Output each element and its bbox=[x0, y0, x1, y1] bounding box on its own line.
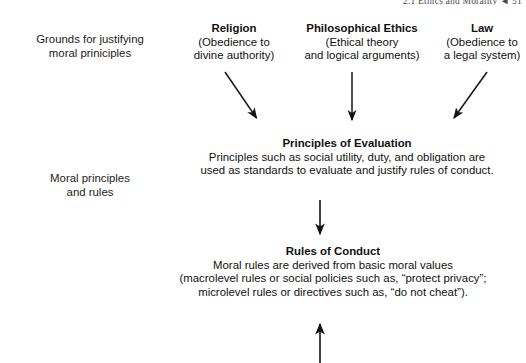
column-law-subtitle: (Obedience to a legal system) bbox=[436, 36, 526, 63]
node-rules-of-conduct: Rules of Conduct Moral rules are derived… bbox=[140, 245, 526, 299]
column-law-title: Law bbox=[436, 22, 526, 36]
node-rules-of-conduct-body: Moral rules are derived from basic moral… bbox=[140, 259, 526, 299]
running-head: 2.1 Ethics and Morality ◄ 51 bbox=[403, 0, 522, 5]
node-rules-of-conduct-title: Rules of Conduct bbox=[140, 245, 526, 258]
node-principles-of-evaluation-title: Principles of Evaluation bbox=[168, 137, 526, 150]
row-label-grounds: Grounds for justifying moral priniciples bbox=[2, 33, 178, 60]
arrow-law-to-principles bbox=[454, 72, 487, 118]
column-philosophical-ethics: Philosophical Ethics (Ethical theory and… bbox=[288, 22, 436, 63]
column-religion-subtitle: (Obedience to divine authority) bbox=[182, 36, 286, 63]
node-principles-of-evaluation: Principles of Evaluation Principles such… bbox=[168, 137, 526, 178]
column-philosophical-ethics-title: Philosophical Ethics bbox=[288, 22, 436, 36]
node-principles-of-evaluation-body: Principles such as social utility, duty,… bbox=[168, 151, 526, 178]
column-law: Law (Obedience to a legal system) bbox=[436, 22, 526, 63]
column-religion: Religion (Obedience to divine authority) bbox=[182, 22, 286, 63]
column-religion-title: Religion bbox=[182, 22, 286, 36]
column-philosophical-ethics-subtitle: (Ethical theory and logical arguments) bbox=[288, 36, 436, 63]
row-label-moral-principles: Moral principles and rules bbox=[2, 172, 178, 199]
arrow-religion-to-principles bbox=[225, 72, 257, 118]
